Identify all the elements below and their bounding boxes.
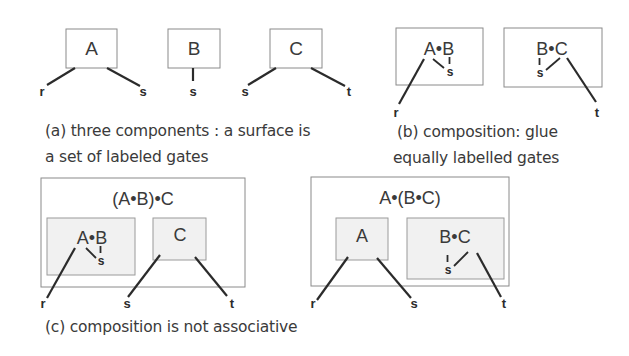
gate-label-t: t xyxy=(502,296,507,311)
composition-ab: A•B s r xyxy=(393,28,483,120)
component-b: B s xyxy=(168,29,220,99)
caption-a-line2: a set of labeled gates xyxy=(45,144,310,170)
panel-a-components: A r s B s C s t xyxy=(39,29,351,99)
composition-bc-label: B•C xyxy=(536,39,567,59)
glued-gate-label-s: s xyxy=(98,254,105,268)
glued-gate-label-s: s xyxy=(447,65,454,79)
inner-label-c: C xyxy=(174,225,187,245)
caption-b-line1: (b) composition: glue xyxy=(393,119,559,145)
gate-label-s: s xyxy=(410,296,417,311)
gate-label-s: s xyxy=(139,84,146,99)
caption-c: (c) composition is not associative xyxy=(45,314,297,340)
caption-b: (b) composition: glue equally labelled g… xyxy=(393,119,559,171)
gate-label-t: t xyxy=(230,296,235,311)
composition-a-then-bc: A•(B•C) A B•C s r s t xyxy=(310,177,509,311)
panel-b-compositions: A•B s r B•C s t xyxy=(393,28,602,120)
outer-label: (A•B)•C xyxy=(112,189,174,209)
gate-label-r: r xyxy=(310,296,315,311)
gate-line-s xyxy=(248,68,276,85)
gate-line-r xyxy=(47,68,75,85)
gate-label-s: s xyxy=(123,296,130,311)
composition-diagram: A r s B s C s t A•B s xyxy=(0,0,629,356)
caption-c-text: (c) composition is not associative xyxy=(45,314,297,340)
inner-label-a: A xyxy=(356,226,368,246)
composition-bc: B•C s t xyxy=(504,28,602,120)
gate-label-s: s xyxy=(241,84,248,99)
caption-a-line1: (a) three components : a surface is xyxy=(45,118,310,144)
gate-label-r: r xyxy=(393,105,398,120)
glued-gate-label-s: s xyxy=(445,263,452,277)
gate-label-t: t xyxy=(595,105,600,120)
gate-label-t: t xyxy=(347,84,352,99)
caption-b-line2: equally labelled gates xyxy=(393,145,559,171)
composition-ab-label: A•B xyxy=(424,39,454,59)
inner-label-bc: B•C xyxy=(439,227,470,247)
gate-line-s xyxy=(107,68,140,86)
gate-label-r: r xyxy=(39,84,44,99)
gate-label-s: s xyxy=(189,84,196,99)
component-c: C s t xyxy=(241,29,351,99)
gate-label-r: r xyxy=(40,296,45,311)
component-a-label: A xyxy=(85,38,98,59)
outer-label: A•(B•C) xyxy=(379,188,441,208)
glued-gate-label-s: s xyxy=(537,66,544,80)
composition-ab-then-c: (A•B)•C A•B s C r s t xyxy=(40,178,245,311)
gate-line-t xyxy=(311,68,345,86)
caption-a: (a) three components : a surface is a se… xyxy=(45,118,310,170)
component-b-label: B xyxy=(188,38,201,59)
component-c-label: C xyxy=(289,38,303,59)
component-a: A r s xyxy=(39,29,146,99)
inner-label-ab: A•B xyxy=(77,228,107,248)
